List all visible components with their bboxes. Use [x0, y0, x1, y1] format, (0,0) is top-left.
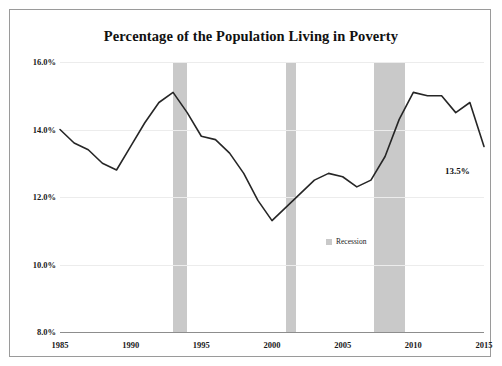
poverty-rate-line — [60, 62, 484, 332]
x-tick-label-1985: 1985 — [40, 340, 80, 350]
y-tick-label-10: 10.0% — [12, 260, 56, 270]
legend: Recession — [326, 237, 366, 246]
y-tick-label-8: 8.0% — [12, 327, 56, 337]
y-tick-label-14: 14.0% — [12, 125, 56, 135]
x-tick-label-2015: 2015 — [464, 340, 502, 350]
recession-legend-swatch — [326, 239, 332, 245]
y-tick-label-16: 16.0% — [12, 57, 56, 67]
x-tick-label-1990: 1990 — [111, 340, 151, 350]
legend-item-label: Recession — [336, 237, 366, 246]
x-axis-line — [60, 332, 484, 333]
x-tick-label-2010: 2010 — [393, 340, 433, 350]
x-tick-label-1995: 1995 — [181, 340, 221, 350]
chart-frame: Percentage of the Population Living in P… — [9, 9, 491, 357]
x-tick-label-2000: 2000 — [252, 340, 292, 350]
plot-area: 16.0% 14.0% 12.0% 10.0% 8.0% 1985 1990 1… — [60, 62, 484, 332]
y-tick-label-12: 12.0% — [12, 192, 56, 202]
x-tick-label-2005: 2005 — [323, 340, 363, 350]
end-value-label: 13.5% — [445, 166, 470, 176]
chart-title: Percentage of the Population Living in P… — [10, 28, 492, 45]
